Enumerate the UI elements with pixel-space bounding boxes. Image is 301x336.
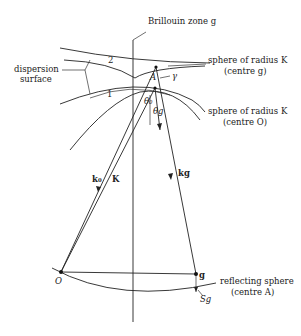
- K-vector: [61, 88, 155, 272]
- A-point: [154, 65, 157, 68]
- K-label: K: [112, 174, 120, 184]
- branch-1-label: 1: [107, 89, 112, 99]
- sg-arrowhead-icon: [194, 287, 198, 292]
- g-label: g: [199, 270, 205, 280]
- dispersion-surface-diagram: Brillouin zone g dispersion surface 2 1 …: [0, 0, 301, 336]
- k0-arrowhead-icon: [96, 186, 101, 192]
- sphere-g-label-2: (centre g): [224, 66, 267, 76]
- A-label: A: [149, 72, 156, 82]
- dispersion-label-1: dispersion: [14, 64, 59, 74]
- reflecting-sphere-label-2: (centre A): [231, 287, 274, 297]
- reflecting-sphere: [52, 268, 216, 291]
- theta-g-label: θg: [153, 106, 164, 116]
- pointer-to-branch-1: [85, 70, 90, 94]
- sphere-o-label-1: sphere of radius K: [208, 106, 288, 116]
- sphere-centre-o: [60, 87, 205, 112]
- theta-0-label: θ₀: [144, 96, 153, 106]
- brillouin-zone-label: Brillouin zone g: [148, 16, 217, 26]
- dispersion-label-2: surface: [20, 74, 52, 84]
- sg-label: Sg: [200, 294, 212, 304]
- tie-point: [153, 86, 156, 89]
- gamma-pointer: [160, 76, 170, 78]
- g-point: [194, 272, 198, 276]
- sphere-g-pointer: [168, 64, 206, 66]
- sphere-g-label-1: sphere of radius K: [208, 55, 288, 65]
- dispersion-branch-1: [70, 91, 200, 150]
- branch-2-label: 2: [108, 55, 113, 65]
- k0-label: k₀: [92, 174, 102, 184]
- kg-label: kg: [178, 168, 190, 178]
- arrowhead-icon: [157, 123, 162, 130]
- sphere-centre-g: [60, 48, 210, 63]
- kg-arrowhead-icon: [168, 173, 173, 180]
- reciprocal-vector-g: [61, 272, 196, 274]
- sphere-o-label-2: (centre O): [223, 117, 267, 127]
- reflecting-sphere-label-1: reflecting sphere: [220, 276, 294, 286]
- origin-point: [59, 270, 63, 274]
- gamma-label: γ: [172, 71, 178, 81]
- origin-label: O: [55, 276, 62, 286]
- brillouin-zone-pointer: [133, 32, 146, 40]
